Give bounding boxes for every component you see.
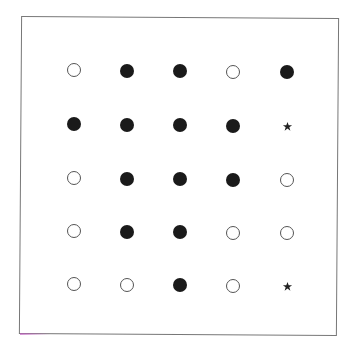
filled-circle-icon xyxy=(173,278,187,292)
star-icon xyxy=(280,119,294,133)
open-circle-icon xyxy=(67,277,81,291)
open-circle-icon xyxy=(120,278,134,292)
filled-circle-icon xyxy=(173,172,187,186)
open-circle-icon xyxy=(67,224,81,238)
filled-circle-icon xyxy=(120,225,134,239)
filled-circle-icon xyxy=(173,118,187,132)
filled-circle-icon xyxy=(67,117,81,131)
open-circle-icon xyxy=(67,171,81,185)
filled-circle-icon xyxy=(120,64,134,78)
filled-circle-icon xyxy=(226,119,240,133)
filled-circle-icon xyxy=(173,64,187,78)
filled-circle-icon xyxy=(120,172,134,186)
filled-circle-icon xyxy=(280,65,294,79)
filled-circle-icon xyxy=(120,118,134,132)
open-circle-icon xyxy=(280,226,294,240)
filled-circle-icon xyxy=(226,173,240,187)
scan-artifact xyxy=(20,333,50,335)
filled-circle-icon xyxy=(173,225,187,239)
open-circle-icon xyxy=(226,226,240,240)
open-circle-icon xyxy=(226,65,240,79)
star-icon xyxy=(280,279,294,293)
open-circle-icon xyxy=(226,279,240,293)
open-circle-icon xyxy=(280,173,294,187)
open-circle-icon xyxy=(67,63,81,77)
